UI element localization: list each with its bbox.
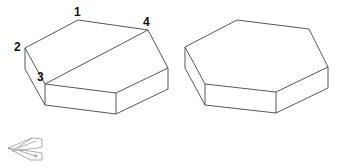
- diagonal-line: [45, 30, 148, 84]
- vertex-label-4: 4: [143, 15, 150, 29]
- right-hexagonal-prism: [185, 20, 328, 113]
- right-prism-top-face: [185, 20, 328, 92]
- vertex-label-1: 1: [74, 5, 81, 19]
- vertex-label-2: 2: [14, 40, 21, 54]
- left-hexagonal-prism: [25, 20, 168, 114]
- view-orientation-icon: [8, 138, 42, 160]
- diagram-canvas: 1 2 3 4: [0, 0, 347, 168]
- vertex-label-3: 3: [37, 70, 44, 84]
